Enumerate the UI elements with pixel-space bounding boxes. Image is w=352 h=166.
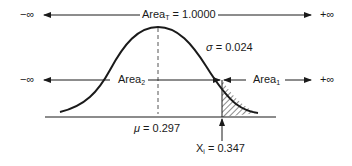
top-neg-infinity: −∞ bbox=[18, 9, 36, 20]
area2-label: Area2 bbox=[116, 74, 147, 86]
normal-curve-diagram bbox=[0, 0, 352, 166]
xi-label: Xi = 0.347 bbox=[194, 143, 247, 155]
top-pos-infinity: +∞ bbox=[318, 9, 336, 20]
total-area-label: AreaT = 1.0000 bbox=[140, 9, 218, 21]
middle-neg-infinity: −∞ bbox=[18, 74, 36, 85]
mean-label: μ = 0.297 bbox=[132, 123, 182, 134]
middle-pos-infinity: +∞ bbox=[318, 74, 336, 85]
area1-label: Area1 bbox=[251, 74, 282, 86]
sigma-label: σ = 0.024 bbox=[204, 42, 255, 53]
